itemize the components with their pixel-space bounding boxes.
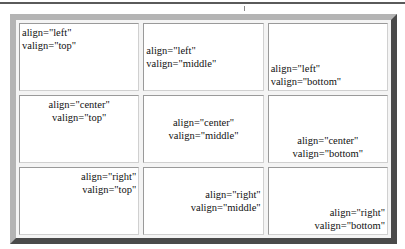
valign-text: valign="bottom" [315,220,386,231]
alignment-table: align="left" valign="top" align="left" v… [15,19,392,239]
cell-right-middle: align="right" valign="middle" [143,167,263,235]
table-row: align="left" valign="top" align="left" v… [19,23,388,91]
cell-label: align="center" valign="bottom" [293,134,364,160]
valign-text: valign="middle" [169,130,239,141]
table-row: align="center" valign="top" align="cente… [19,95,388,163]
cursor-mark [244,6,245,11]
align-text: align="left" [22,27,71,38]
valign-text: valign="middle" [146,58,216,69]
cell-label: align="center" valign="middle" [169,116,239,142]
cell-left-top: align="left" valign="top" [19,23,139,91]
valign-text: valign="top" [52,112,106,123]
align-text: align="center" [173,117,234,128]
align-text: align="left" [271,63,320,74]
cell-label: align="left" valign="bottom" [271,62,342,88]
align-text: align="right" [330,207,385,218]
cell-label: align="left" valign="top" [22,26,76,52]
valign-text: valign="top" [82,184,136,195]
cell-right-top: align="right" valign="top" [19,167,139,235]
cell-label: align="center" valign="top" [49,98,110,124]
cell-left-bottom: align="left" valign="bottom" [268,23,388,91]
table-frame: align="left" valign="top" align="left" v… [10,14,397,244]
align-text: align="right" [81,171,136,182]
cell-label: align="right" valign="bottom" [315,206,386,232]
valign-text: valign="middle" [191,202,261,213]
cell-label: align="left" valign="middle" [146,44,216,70]
cell-label: align="right" valign="middle" [191,188,261,214]
cell-label: align="right" valign="top" [81,170,136,196]
cell-center-top: align="center" valign="top" [19,95,139,163]
valign-text: valign="top" [22,40,76,51]
table-row: align="right" valign="top" align="right"… [19,167,388,235]
top-horizontal-rule [0,2,405,4]
cell-left-middle: align="left" valign="middle" [143,23,263,91]
align-text: align="center" [49,99,110,110]
cell-center-bottom: align="center" valign="bottom" [268,95,388,163]
align-text: align="center" [297,135,358,146]
cell-right-bottom: align="right" valign="bottom" [268,167,388,235]
align-text: align="right" [205,189,260,200]
valign-text: valign="bottom" [293,148,364,159]
cell-center-middle: align="center" valign="middle" [143,95,263,163]
valign-text: valign="bottom" [271,76,342,87]
align-text: align="left" [146,45,195,56]
